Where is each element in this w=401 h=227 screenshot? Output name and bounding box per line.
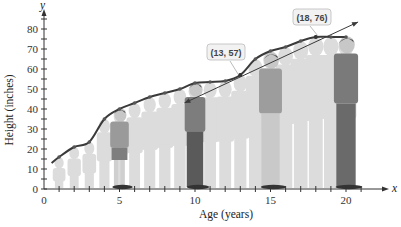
data-point [223, 79, 227, 83]
y-axis-title: Height (inches) [3, 74, 16, 145]
x-tick-label: 15 [265, 194, 277, 206]
x-axis-arrow-icon [382, 187, 389, 192]
y-tick-label: 40 [27, 103, 39, 115]
y-tick-label: 20 [27, 143, 39, 155]
data-point [72, 145, 76, 149]
data-point [299, 39, 303, 43]
annotation-18-76: (18, 76) [293, 9, 331, 36]
figure-age-20 [334, 36, 362, 189]
data-point [344, 35, 348, 39]
y-tick-label: 70 [27, 43, 39, 55]
data-point [88, 140, 92, 144]
annotation-13-57: (13, 57) [207, 44, 245, 74]
data-point [254, 57, 258, 61]
x-tick-label: 20 [341, 194, 353, 206]
data-point [148, 95, 152, 99]
data-point [269, 49, 273, 53]
x-axis-title: Age (years) [199, 208, 253, 221]
data-point [118, 107, 122, 111]
x-axis-symbol: x [391, 182, 398, 194]
data-point [178, 87, 182, 91]
y-tick-label: 30 [27, 123, 39, 135]
height-growth-chart: 01020304050607080 05101520 y x Height (i… [0, 0, 401, 227]
x-tick-label: 5 [117, 194, 123, 206]
y-tick-label: 80 [27, 23, 39, 35]
data-point [284, 45, 288, 49]
data-point [208, 80, 212, 84]
annotation-label-b: (18, 76) [296, 13, 327, 23]
y-tick-label: 60 [27, 63, 39, 75]
data-point [163, 91, 167, 95]
x-tick-label: 10 [190, 194, 202, 206]
annotation-label-a: (13, 57) [210, 48, 241, 58]
x-tick-label: 0 [41, 194, 47, 206]
y-axis-symbol: y [39, 0, 46, 12]
data-point [57, 155, 61, 159]
data-point [103, 117, 107, 121]
y-tick-label: 50 [27, 83, 39, 95]
data-point [193, 81, 197, 85]
y-tick-label: 10 [27, 163, 39, 175]
y-tick-label: 0 [33, 183, 39, 195]
data-point [133, 101, 137, 105]
